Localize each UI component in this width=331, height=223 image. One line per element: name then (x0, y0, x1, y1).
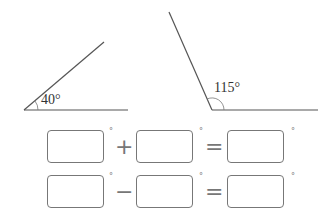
degree-symbol: ° (199, 172, 203, 181)
answer-box-2-3[interactable] (227, 175, 284, 208)
answer-box-1-3[interactable] (227, 130, 284, 163)
minus-sign: − (115, 181, 133, 203)
degree-symbol: ° (109, 127, 113, 136)
angle-40-figure (24, 42, 128, 110)
degree-symbol: ° (199, 127, 203, 136)
plus-sign: + (115, 136, 133, 158)
angle-40-label: 40° (41, 92, 61, 108)
equals-sign: = (205, 136, 223, 158)
equals-sign: = (205, 181, 223, 203)
angle-115-figure (169, 12, 318, 110)
answer-box-2-2[interactable] (136, 175, 193, 208)
degree-symbol: ° (291, 127, 295, 136)
answer-box-1-2[interactable] (136, 130, 193, 163)
answer-box-1-1[interactable] (47, 130, 104, 163)
degree-symbol: ° (109, 172, 113, 181)
answer-box-2-1[interactable] (47, 175, 104, 208)
degree-symbol: ° (291, 172, 295, 181)
angle-115-label: 115° (214, 80, 240, 96)
